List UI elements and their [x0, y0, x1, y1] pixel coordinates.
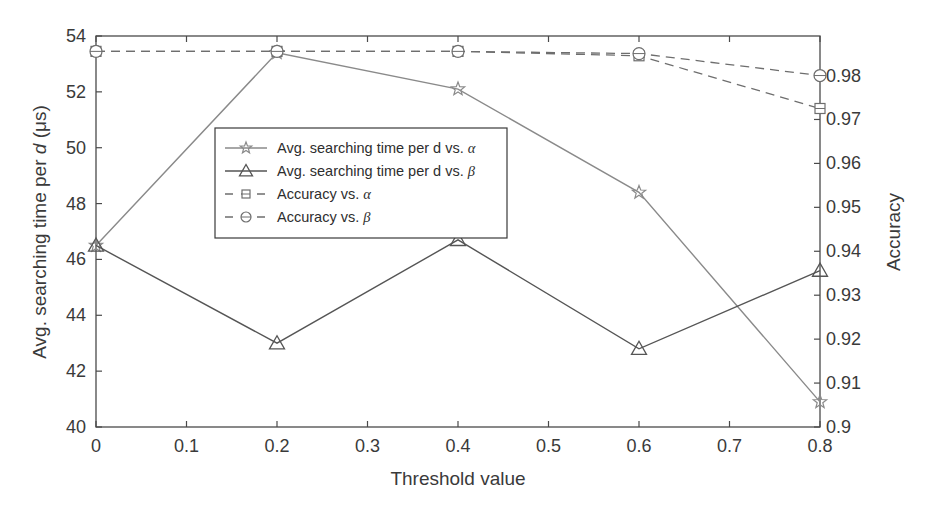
x-tick-label: 0.5 — [536, 436, 561, 456]
x-tick-label: 0.1 — [174, 436, 199, 456]
y2-tick-label: 0.91 — [826, 373, 861, 393]
y2-axis-ticks: 0.90.910.920.930.940.950.960.970.98 — [814, 66, 861, 437]
y2-tick-label: 0.93 — [826, 285, 861, 305]
triangle-marker — [632, 341, 647, 354]
x-tick-label: 0.2 — [264, 436, 289, 456]
y-axis-title-pre: Avg. searching time per — [29, 154, 50, 359]
x-tick-label: 0.8 — [807, 436, 832, 456]
y2-tick-label: 0.9 — [826, 417, 851, 437]
y-tick-label: 44 — [66, 305, 86, 325]
legend-label: Accuracy vs. β — [277, 209, 371, 225]
y-tick-label: 48 — [66, 194, 86, 214]
x-tick-label: 0.3 — [355, 436, 380, 456]
x-axis-title: Threshold value — [390, 468, 525, 489]
y-tick-label: 40 — [66, 417, 86, 437]
y2-tick-label: 0.94 — [826, 241, 861, 261]
legend-label: Accuracy vs. α — [277, 186, 371, 202]
y2-axis-title: Accuracy — [883, 192, 904, 271]
series-triangle — [89, 232, 828, 354]
y-tick-label: 54 — [66, 26, 86, 46]
triangle-marker — [270, 336, 285, 349]
y-tick-label: 50 — [66, 138, 86, 158]
x-tick-label: 0.4 — [445, 436, 470, 456]
y2-tick-label: 0.98 — [826, 66, 861, 86]
y2-tick-label: 0.95 — [826, 197, 861, 217]
y-tick-label: 42 — [66, 361, 86, 381]
legend-label: Avg. searching time per d vs. β — [277, 163, 476, 179]
y2-tick-label: 0.97 — [826, 109, 861, 129]
x-tick-label: 0.6 — [626, 436, 651, 456]
legend-label: Avg. searching time per d vs. α — [277, 140, 476, 156]
y-tick-label: 46 — [66, 249, 86, 269]
y-tick-label: 52 — [66, 82, 86, 102]
y2-tick-label: 0.92 — [826, 329, 861, 349]
line-chart: 00.10.20.30.40.50.60.70.8 40424446485052… — [0, 0, 934, 514]
x-tick-label: 0 — [91, 436, 101, 456]
y-axis-title-post: (μs) — [29, 105, 50, 143]
series-line — [96, 240, 820, 349]
legend: Avg. searching time per d vs. αAvg. sear… — [215, 128, 507, 238]
series-circle — [90, 45, 826, 81]
y-axis-title: Avg. searching time per d (μs) — [29, 105, 50, 359]
y2-tick-label: 0.96 — [826, 153, 861, 173]
series-line — [96, 51, 820, 108]
x-tick-label: 0.7 — [717, 436, 742, 456]
